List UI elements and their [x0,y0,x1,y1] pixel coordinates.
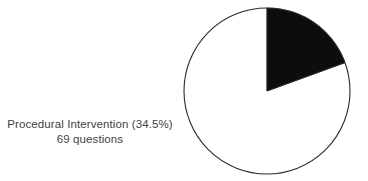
pie-slice-annotation-line-1: Procedural Intervention (34.5%) [0,117,180,132]
pie-slice-annotation: Procedural Intervention (34.5%) 69 quest… [0,117,180,147]
pie-chart-svg [0,0,368,181]
pie-chart-graphic [0,0,368,181]
pie-chart-figure: Procedural Intervention (34.5%) 69 quest… [0,0,368,181]
pie-slice-annotation-line-2: 69 questions [0,132,180,147]
